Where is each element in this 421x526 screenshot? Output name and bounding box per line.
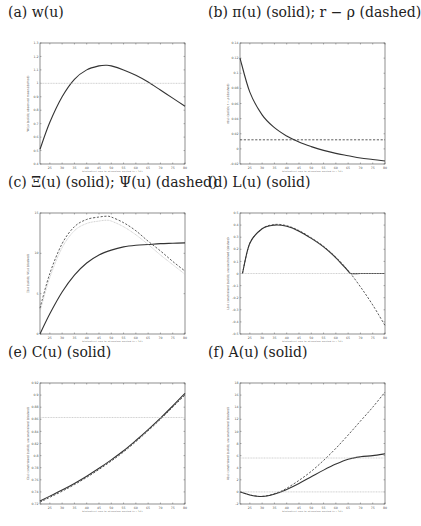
chart-e: 2530354045505560657075800.720.740.760.78… [0,340,198,512]
svg-text:80: 80 [383,166,387,170]
svg-text:0.5: 0.5 [233,211,238,215]
svg-text:4: 4 [236,466,238,470]
panel-a: (a) w(u) 2530354045505560657075800.40.50… [0,0,198,172]
svg-text:70: 70 [158,336,162,340]
svg-text:80: 80 [183,166,187,170]
svg-text:-0.3: -0.3 [232,308,238,312]
svg-text:0.78: 0.78 [31,466,38,470]
svg-text:16: 16 [234,393,238,397]
svg-text:35: 35 [272,506,276,510]
svg-text:80: 80 [383,506,387,510]
svg-text:C(u) constrained (solid); unco: C(u) constrained (solid); unconstrained … [26,407,30,480]
svg-text:0.4: 0.4 [33,162,38,166]
panel-f: (f) A(u) (solid) 25303540455055606570758… [200,340,398,512]
svg-text:65: 65 [146,166,150,170]
svg-text:25: 25 [248,166,252,170]
svg-text:35: 35 [72,166,76,170]
svg-text:75: 75 [171,166,175,170]
chart-f: 253035404550556065707580-202468101214161… [200,340,398,512]
svg-text:0.1: 0.1 [233,71,238,75]
svg-text:8: 8 [236,442,238,446]
svg-text:0.06: 0.06 [231,102,238,106]
svg-text:Ξ(u) (solid); Ψ(u) (dashed): Ξ(u) (solid); Ψ(u) (dashed) [26,254,30,293]
svg-text:75: 75 [171,336,175,340]
panel-b: (b) π(u) (solid); r − ρ (dashed) 2530354… [200,0,398,172]
svg-text:0.82: 0.82 [31,442,38,446]
svg-text:-2: -2 [235,502,238,506]
svg-text:1.3: 1.3 [33,41,38,45]
svg-text:-0.5: -0.5 [232,332,238,336]
svg-text:0.2: 0.2 [233,247,238,251]
panel-c: (c) Ξ(u) (solid); Ψ(u) (dashed) 25303540… [0,170,198,342]
svg-text:80: 80 [383,336,387,340]
svg-text:0.8: 0.8 [33,454,38,458]
svg-text:80: 80 [183,336,187,340]
svg-text:0.7: 0.7 [33,122,38,126]
svg-text:0.12: 0.12 [231,56,238,60]
svg-text:25: 25 [48,506,52,510]
svg-text:70: 70 [358,166,362,170]
plot-frame [40,43,185,164]
svg-text:L(u) constrained (solid); unco: L(u) constrained (solid); unconstrained … [226,237,230,310]
svg-text:14: 14 [234,405,238,409]
svg-text:0.1: 0.1 [233,260,238,264]
svg-text:-0.4: -0.4 [232,320,238,324]
svg-text:0.84: 0.84 [31,430,38,434]
panel-d: (d) L(u) (solid) 25303540455055606570758… [200,170,398,342]
svg-text:0: 0 [236,272,238,276]
svg-text:25: 25 [48,336,52,340]
svg-text:75: 75 [371,166,375,170]
svg-text:70: 70 [358,336,362,340]
svg-text:65: 65 [146,506,150,510]
svg-text:65: 65 [146,336,150,340]
svg-text:0.08: 0.08 [231,86,238,90]
svg-text:30: 30 [260,166,264,170]
svg-text:0: 0 [236,490,238,494]
svg-text:30: 30 [260,506,264,510]
plot-frame [40,213,185,334]
svg-text:0.9: 0.9 [33,95,38,99]
svg-text:0.76: 0.76 [31,478,38,482]
svg-text:-0.2: -0.2 [232,296,238,300]
svg-text:65: 65 [346,166,350,170]
svg-text:0.86: 0.86 [31,417,38,421]
svg-text:1.1: 1.1 [33,68,38,72]
svg-text:35: 35 [72,336,76,340]
svg-text:-0.1: -0.1 [232,284,238,288]
svg-text:0.3: 0.3 [233,235,238,239]
svg-text:-0.02: -0.02 [230,162,238,166]
svg-text:0.74: 0.74 [31,490,38,494]
svg-text:30: 30 [60,166,64,170]
svg-text:0.04: 0.04 [231,117,238,121]
chart-b: 253035404550556065707580-0.0200.020.040.… [200,0,398,172]
svg-text:0.72: 0.72 [31,502,38,506]
svg-text:6: 6 [236,454,238,458]
svg-text:5: 5 [36,292,38,296]
svg-text:12: 12 [234,417,238,421]
plot-frame [240,43,385,164]
svg-text:A(u) constrained (solid); unco: A(u) constrained (solid); unconstrained … [226,407,230,480]
svg-text:0.88: 0.88 [31,405,38,409]
svg-text:biological age in planning per: biological age in planning period (u+21) [82,510,143,513]
svg-text:0.4: 0.4 [233,223,238,227]
svg-text:75: 75 [171,506,175,510]
svg-text:1: 1 [36,81,38,85]
svg-text:0.02: 0.02 [231,132,238,136]
svg-text:70: 70 [158,166,162,170]
svg-text:0: 0 [236,147,238,151]
plot-frame [40,383,185,504]
svg-text:70: 70 [158,506,162,510]
svg-text:0.5: 0.5 [33,149,38,153]
svg-text:25: 25 [48,166,52,170]
svg-text:0.8: 0.8 [33,108,38,112]
svg-text:2: 2 [236,478,238,482]
svg-text:70: 70 [358,506,362,510]
plot-frame [240,383,385,504]
panel-e: (e) C(u) (solid) 25303540455055606570758… [0,340,198,512]
svg-text:0.92: 0.92 [31,381,38,385]
svg-text:W(u) (solid); observed mean (d: W(u) (solid); observed mean (dotted) [26,76,30,132]
svg-text:25: 25 [248,336,252,340]
chart-d: 253035404550556065707580-0.5-0.4-0.3-0.2… [200,170,398,342]
svg-text:0.6: 0.6 [33,135,38,139]
chart-a: 2530354045505560657075800.40.50.60.70.80… [0,0,198,172]
